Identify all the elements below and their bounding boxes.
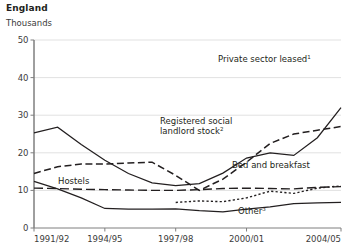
series-label-bed-and-breakfast: Bed and breakfast — [232, 160, 311, 170]
series-label-other: Other3 — [238, 206, 266, 216]
x-axis-labels-group: 1991/921994/951997/982000/012004/05 — [34, 234, 341, 244]
x-tick-label: 2000/01 — [229, 234, 264, 244]
y-tick-label: 50 — [18, 35, 29, 45]
chart-container: England Thousands 01020304050 1991/92199… — [0, 0, 348, 251]
x-tick-label: 1991/92 — [34, 234, 69, 244]
y-axis-labels-group: 01020304050 — [18, 35, 29, 233]
y-tick-label: 20 — [18, 148, 29, 158]
x-tick-label: 2004/05 — [306, 234, 341, 244]
series-line-hostels — [34, 187, 341, 191]
y-tick-label: 40 — [18, 73, 29, 83]
series-label-landlord-stock: landlord stock2 — [160, 126, 223, 136]
y-tick-label: 0 — [23, 223, 28, 233]
y-axis-ticks-group — [31, 40, 35, 228]
series-label-hostels: Hostels — [58, 176, 90, 186]
x-tick-label: 1997/98 — [158, 234, 193, 244]
series-label-registered-social: Registered social — [160, 116, 232, 126]
chart-canvas: 01020304050 1991/921994/951997/982000/01… — [0, 0, 348, 251]
y-tick-label: 10 — [18, 185, 29, 195]
series-label-private-sector-leased: Private sector leased1 — [218, 54, 311, 64]
y-tick-label: 30 — [18, 110, 29, 120]
x-tick-label: 1994/95 — [87, 234, 122, 244]
x-axis-ticks-group — [34, 228, 341, 232]
